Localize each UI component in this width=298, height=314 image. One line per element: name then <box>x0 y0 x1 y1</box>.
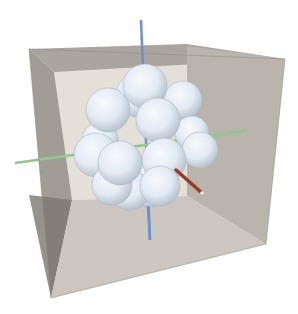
render-canvas <box>0 0 298 314</box>
